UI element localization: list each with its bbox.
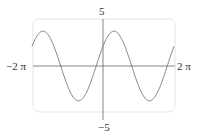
plot-area — [0, 0, 197, 140]
y-min-label: −5 — [98, 122, 110, 133]
y-max-label: 5 — [99, 6, 105, 17]
x-min-label: −2 π — [6, 61, 26, 72]
x-max-label: 2 π — [177, 61, 191, 72]
